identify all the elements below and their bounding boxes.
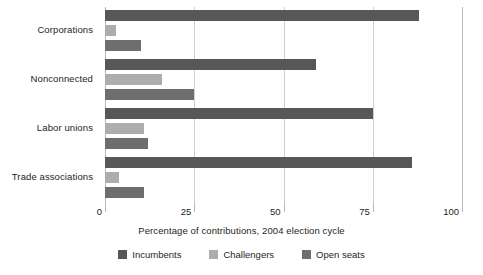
bar-track — [105, 187, 462, 198]
x-axis-tick — [105, 203, 106, 212]
legend-item-open-seats: Open seats — [302, 249, 365, 260]
legend-item-challengers: Challengers — [209, 249, 274, 260]
bar-track — [105, 74, 462, 85]
y-axis-label: Trade associations — [12, 171, 93, 182]
bar-track — [105, 172, 462, 183]
bar-open-seats — [105, 138, 148, 149]
y-axis-label: Nonconnected — [31, 73, 93, 84]
legend-label: Incumbents — [132, 249, 181, 260]
bar-track — [105, 89, 462, 100]
legend-label: Open seats — [316, 249, 365, 260]
x-axis-tick-label: 0 — [97, 206, 105, 217]
bar-open-seats — [105, 89, 194, 100]
x-axis-tick — [462, 203, 463, 212]
bar-open-seats — [105, 187, 144, 198]
bar-track — [105, 10, 462, 21]
x-axis-tick — [284, 203, 285, 212]
bar-track — [105, 108, 462, 119]
legend-swatch — [118, 250, 127, 259]
bar-track — [105, 25, 462, 36]
bar-track — [105, 59, 462, 70]
legend-swatch — [302, 250, 311, 259]
x-axis-tick — [373, 203, 374, 212]
bar-group — [105, 59, 462, 108]
bar-track — [105, 157, 462, 168]
x-axis: 0255075100 — [105, 203, 462, 221]
bar-incumbents — [105, 108, 373, 119]
bar-incumbents — [105, 157, 412, 168]
bar-group — [105, 108, 462, 157]
bar-challengers — [105, 74, 162, 85]
bar-group — [105, 10, 462, 59]
x-axis-title: Percentage of contributions, 2004 electi… — [0, 225, 483, 236]
x-axis-tick-label: 75 — [359, 206, 373, 217]
bar-chart: CorporationsNonconnectedLabor unionsTrad… — [0, 0, 483, 275]
y-axis-label: Corporations — [37, 24, 93, 35]
x-axis-tick — [194, 203, 195, 212]
bar-track — [105, 40, 462, 51]
plot-right-border — [462, 7, 463, 203]
legend-swatch — [209, 250, 218, 259]
bar-challengers — [105, 25, 116, 36]
bar-incumbents — [105, 59, 316, 70]
legend-label: Challengers — [223, 249, 274, 260]
bar-open-seats — [105, 40, 141, 51]
bar-group — [105, 157, 462, 206]
legend-item-incumbents: Incumbents — [118, 249, 181, 260]
y-axis-labels: CorporationsNonconnectedLabor unionsTrad… — [0, 7, 105, 203]
x-axis-tick-label: 50 — [270, 206, 284, 217]
y-axis-label: Labor unions — [37, 122, 93, 133]
chart-legend: IncumbentsChallengersOpen seats — [0, 249, 483, 260]
bar-track — [105, 138, 462, 149]
x-axis-tick-label: 25 — [181, 206, 195, 217]
x-axis-tick-label: 100 — [443, 206, 462, 217]
bar-challengers — [105, 172, 119, 183]
plot-area — [105, 7, 462, 203]
bar-challengers — [105, 123, 144, 134]
bar-incumbents — [105, 10, 419, 21]
bar-track — [105, 123, 462, 134]
